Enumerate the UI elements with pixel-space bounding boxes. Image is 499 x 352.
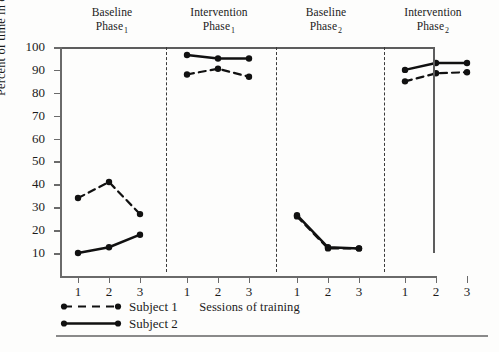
phase-header-intervention-2: Intervention Phase2 — [374, 6, 492, 37]
y-axis-tick-label: 30 — [32, 200, 45, 213]
y-axis-tick-label: 20 — [32, 223, 45, 236]
x-axis-tick — [218, 276, 219, 283]
legend-key-dashed-icon — [60, 301, 122, 312]
x-axis-tick — [297, 276, 298, 283]
data-point-marker — [106, 179, 112, 185]
y-axis-tick-label: 80 — [32, 86, 45, 99]
phase-subscript: 2 — [444, 26, 449, 35]
x-axis-tick-label: 3 — [356, 285, 363, 299]
phase-header-intervention-1: Intervention Phase1 — [160, 6, 278, 37]
chart-legend: Subject 1 Subject 2 — [60, 298, 178, 332]
x-axis-tick — [78, 276, 79, 283]
y-axis-tick: 20 — [54, 230, 61, 232]
series-segment-line — [297, 216, 359, 248]
data-point-marker — [402, 67, 408, 73]
x-axis-tick-label: 3 — [246, 285, 253, 299]
legend-label-subject-1: Subject 1 — [129, 299, 178, 314]
x-axis-tick-label: 2 — [433, 285, 440, 299]
plot-frame-top — [60, 47, 435, 49]
x-axis-tick — [405, 276, 406, 283]
phase-header-line1: Intervention — [160, 6, 278, 20]
figure-bottom-rule — [56, 335, 488, 337]
y-axis-tick: 80 — [54, 93, 61, 95]
y-axis-title: Percent of time in changeover — [0, 0, 9, 96]
data-point-marker — [106, 244, 112, 250]
y-axis-tick-label: 10 — [32, 246, 45, 259]
x-axis-tick — [109, 276, 110, 283]
x-axis-tick-label: 3 — [464, 285, 471, 299]
y-axis-tick: 30 — [54, 207, 61, 209]
y-axis-tick: 100 — [54, 47, 61, 49]
data-point-marker — [294, 212, 300, 218]
series-segment-line — [78, 182, 140, 214]
phase-separator-line — [276, 47, 277, 272]
data-point-marker — [137, 231, 143, 237]
y-axis-tick: 40 — [54, 184, 61, 186]
data-point-marker — [184, 71, 190, 77]
y-axis-tick-label: 40 — [32, 177, 45, 190]
phase-header-baseline-1: Baseline Phase1 — [58, 6, 166, 37]
plot-frame-right — [433, 47, 435, 253]
phase-header-row: Baseline Phase1 Intervention Phase1 Base… — [0, 6, 499, 42]
y-axis-tick-label: 60 — [32, 132, 45, 145]
y-axis-tick: 70 — [54, 116, 61, 118]
x-axis-tick-label: 1 — [402, 285, 409, 299]
y-axis-tick-label: 50 — [32, 154, 45, 167]
series-segment-line — [297, 215, 359, 248]
legend-key-solid-icon — [60, 318, 122, 329]
x-axis-tick-label: 1 — [75, 285, 82, 299]
x-axis-tick — [140, 276, 141, 283]
data-point-marker — [184, 52, 190, 58]
phase-separator-line — [384, 47, 385, 272]
data-point-marker — [137, 211, 143, 217]
phase-header-line2: Phase1 — [160, 20, 278, 38]
x-axis-tick — [436, 276, 437, 283]
y-axis-tick-label: 90 — [32, 63, 45, 76]
y-axis-tick-label: 70 — [32, 109, 45, 122]
data-point-marker — [356, 245, 362, 251]
x-axis-tick-label: 2 — [325, 285, 332, 299]
x-axis-tick-label: 1 — [294, 285, 301, 299]
x-axis-tick-label: 1 — [184, 285, 191, 299]
x-axis-tick — [359, 276, 360, 283]
data-point-marker — [246, 74, 252, 80]
phase-header-line1: Baseline — [58, 6, 166, 20]
data-point-marker — [464, 69, 470, 75]
phase-header-line1: Intervention — [374, 6, 492, 20]
legend-item-subject-2: Subject 2 — [60, 315, 178, 332]
data-series-layer — [60, 47, 435, 253]
data-point-marker — [464, 60, 470, 66]
data-point-marker — [325, 244, 331, 250]
series-subject-1 — [75, 66, 470, 252]
phase-header-line2: Phase2 — [272, 20, 380, 38]
legend-label-subject-2: Subject 2 — [129, 316, 178, 331]
phase-subscript: 2 — [337, 26, 342, 35]
x-axis-tick — [328, 276, 329, 283]
phase-header-line1: Baseline — [272, 6, 380, 20]
y-axis-tick-label: 100 — [26, 40, 46, 53]
legend-item-subject-1: Subject 1 — [60, 298, 178, 315]
phase-subscript: 1 — [123, 26, 128, 35]
data-point-marker — [215, 66, 221, 72]
phase-header-line2: Phase2 — [374, 20, 492, 38]
data-point-marker — [75, 195, 81, 201]
x-axis-tick — [187, 276, 188, 283]
x-axis-tick-label: 2 — [106, 285, 113, 299]
x-axis-tick — [467, 276, 468, 283]
figure-chart-percent-time-in-changeover: Baseline Phase1 Intervention Phase1 Base… — [0, 0, 499, 352]
data-point-marker — [215, 55, 221, 61]
y-axis-tick: 90 — [54, 70, 61, 72]
x-axis-tick — [249, 276, 250, 283]
y-axis-tick: 50 — [54, 161, 61, 163]
data-point-marker — [402, 78, 408, 84]
phase-header-line2: Phase1 — [58, 20, 166, 38]
series-subject-2 — [75, 52, 470, 256]
x-axis-tick-label: 2 — [215, 285, 222, 299]
y-axis-line-lower — [60, 253, 62, 277]
phase-subscript: 1 — [230, 26, 235, 35]
x-axis-tick-label: 3 — [137, 285, 144, 299]
y-axis-tick: 60 — [54, 139, 61, 141]
data-point-marker — [75, 250, 81, 256]
plot-area: 102030405060708090100 — [60, 47, 435, 253]
phase-separator-line — [166, 47, 167, 272]
